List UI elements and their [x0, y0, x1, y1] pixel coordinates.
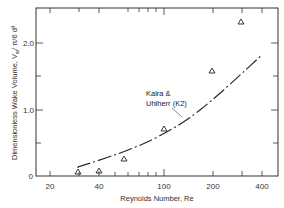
x-tick-label-100: 100 — [157, 182, 171, 191]
y-tick-label-1: 1.0 — [23, 106, 35, 115]
chart: 20 40 100 200 400 0 1.0 2.0 Reynolds Num… — [0, 0, 284, 208]
x-tick-label-200: 200 — [206, 182, 220, 191]
x-tick-label-40: 40 — [95, 182, 104, 191]
k2-curve — [78, 55, 262, 168]
x-axis-title: Reynolds Number, Re — [120, 194, 193, 203]
curve-label-line1: Kalra & — [146, 89, 171, 98]
triangle-marker — [238, 19, 244, 24]
y-tick-label-2: 2.0 — [23, 39, 35, 48]
triangle-marker — [121, 156, 127, 161]
x-tick-label-20: 20 — [46, 182, 55, 191]
triangle-marker — [161, 126, 167, 131]
x-tick-label-400: 400 — [255, 182, 269, 191]
curve-label-line2: Uhlherr (K2) — [146, 99, 187, 108]
label-leader-line — [172, 108, 182, 117]
y-tick-label-0: 0 — [29, 172, 34, 181]
triangle-marker — [209, 68, 215, 73]
triangle-marker — [75, 169, 81, 174]
svg-text:Dimensionless Wake Volume, Vw/: Dimensionless Wake Volume, Vw/ π/6 d³ — [10, 25, 20, 160]
y-axis-title: Dimensionless Wake Volume, Vw/ π/6 d³ — [10, 25, 20, 160]
